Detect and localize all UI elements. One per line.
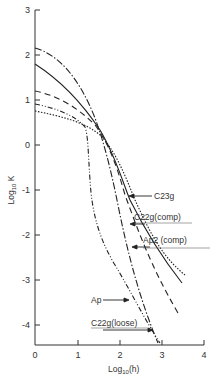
label-c22g-comp: C22g(comp) (134, 212, 181, 222)
x-axis-title: Log10(h) (108, 364, 139, 375)
svg-text:4: 4 (201, 350, 206, 360)
x-tick-labels: 0 1 2 3 4 (32, 350, 206, 360)
axes (35, 10, 204, 345)
svg-text:3: 3 (25, 5, 30, 15)
svg-text:2: 2 (25, 50, 30, 60)
y-tick-labels: 3 2 1 0 -1 -2 -3 -4 (22, 5, 30, 330)
curve-ap2-comp (35, 91, 178, 313)
chart: 3 2 1 0 -1 -2 -3 -4 0 1 2 3 4 Log10(h) L… (0, 0, 222, 380)
label-c23g: C23g (154, 191, 175, 201)
svg-text:-2: -2 (22, 230, 30, 240)
y-axis-title: Log10 K (6, 175, 17, 204)
svg-text:-1: -1 (22, 185, 30, 195)
svg-text:0: 0 (25, 140, 30, 150)
label-ap: Ap (91, 295, 102, 305)
svg-text:3: 3 (159, 350, 164, 360)
svg-text:1: 1 (25, 95, 30, 105)
svg-text:1: 1 (75, 350, 80, 360)
curve-c22g-comp (35, 64, 182, 283)
label-ap2-comp: Ap2 (comp) (143, 235, 187, 245)
svg-text:-3: -3 (22, 275, 30, 285)
svg-text:-4: -4 (22, 320, 30, 330)
svg-text:2: 2 (117, 350, 122, 360)
curve-c22g-loose (35, 104, 160, 343)
label-c22g-loose: C22g(loose) (91, 318, 137, 328)
svg-text:0: 0 (32, 350, 37, 360)
